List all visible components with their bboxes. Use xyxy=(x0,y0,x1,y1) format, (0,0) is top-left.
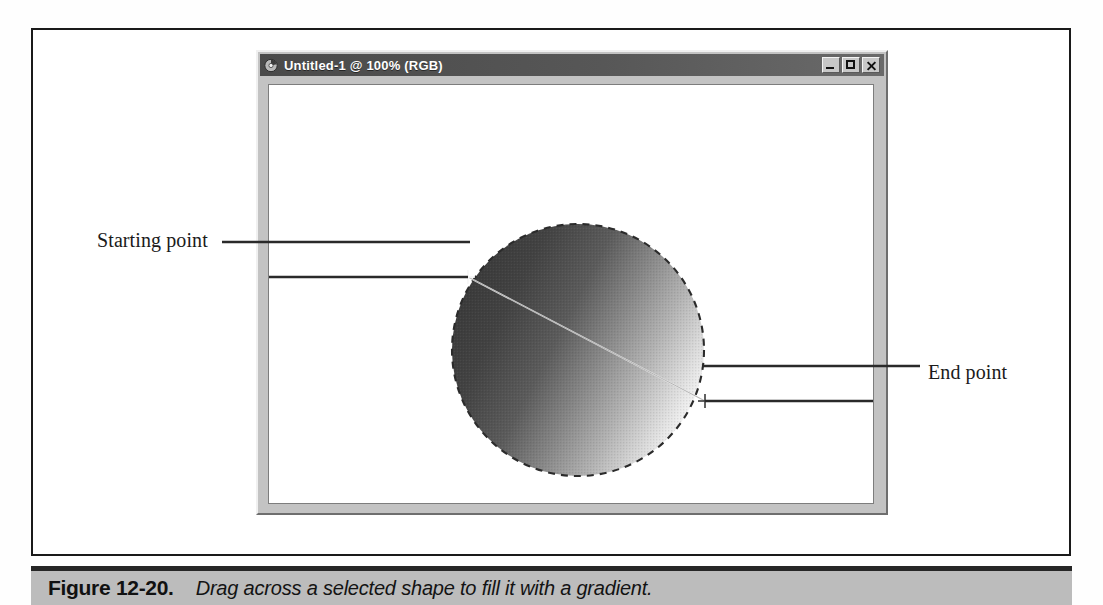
figure-caption-bar: Figure 12-20. Drag across a selected sha… xyxy=(31,566,1072,605)
maximize-button[interactable] xyxy=(842,57,860,73)
figure-plate: Untitled-1 @ 100% (RGB) xyxy=(0,0,1103,605)
document-icon xyxy=(263,58,279,73)
figure-number: Figure 12-20. xyxy=(48,576,174,600)
window-title: Untitled-1 @ 100% (RGB) xyxy=(284,58,822,73)
close-button[interactable] xyxy=(862,57,880,73)
window-controls xyxy=(822,57,880,73)
window-titlebar[interactable]: Untitled-1 @ 100% (RGB) xyxy=(260,54,884,76)
gradient-circle-artwork xyxy=(269,85,873,503)
end-point-label: End point xyxy=(928,361,1007,384)
figure-caption-text: Drag across a selected shape to fill it … xyxy=(196,577,653,600)
image-canvas[interactable] xyxy=(268,84,874,504)
canvas-artwork xyxy=(269,85,873,503)
starting-point-label: Starting point xyxy=(97,229,208,252)
image-window[interactable]: Untitled-1 @ 100% (RGB) xyxy=(256,50,888,515)
minimize-button[interactable] xyxy=(822,57,840,73)
